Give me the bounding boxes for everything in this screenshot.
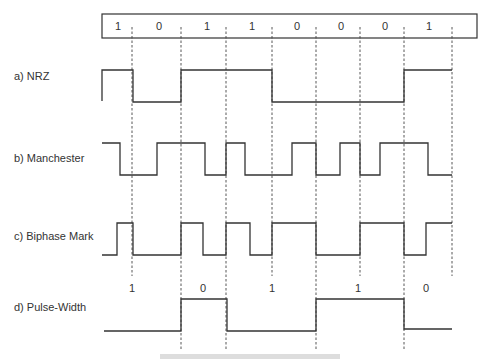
biphase-mark-waveform [102,223,452,255]
pulse-width-waveform [104,299,452,331]
nrz-waveform [102,70,452,102]
pulse-width-bit-label: 0 [200,282,206,294]
row-label-biphase-mark: c) Biphase Mark [14,230,94,242]
bit-label: 0 [156,20,162,32]
row-label-nrz: a) NRZ [14,70,50,82]
manchester-waveform [102,143,452,175]
bit-label: 1 [249,20,255,32]
bit-label: 1 [115,20,121,32]
row-label-pulse-width: d) Pulse-Width [14,301,86,313]
faint-caption [160,354,340,359]
encoding-diagram: 1 0 1 1 0 0 0 1 a) NRZ b) Manchester c) … [0,0,490,361]
bit-label: 0 [382,20,388,32]
pulse-width-bit-label: 1 [355,282,361,294]
row-label-manchester: b) Manchester [14,152,85,164]
bit-label: 1 [204,20,210,32]
bit-label: 0 [294,20,300,32]
pulse-width-bit-label: 1 [129,282,135,294]
bit-label: 1 [426,20,432,32]
bit-label: 0 [338,20,344,32]
pulse-width-bit-label: 0 [423,282,429,294]
pulse-width-bit-label: 1 [269,282,275,294]
